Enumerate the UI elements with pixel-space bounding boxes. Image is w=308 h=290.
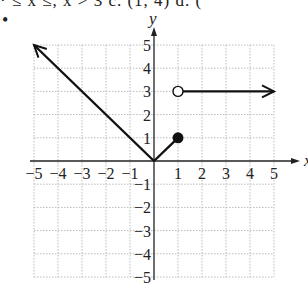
y-tick-label: 3 xyxy=(143,83,151,100)
x-tick-label: 1 xyxy=(174,165,182,182)
y-tick-label: 4 xyxy=(143,60,151,77)
graph-segment xyxy=(34,45,154,161)
y-axis-label: y xyxy=(147,9,157,28)
x-tick-label: −3 xyxy=(73,165,90,182)
closed-dot-icon xyxy=(173,132,184,143)
y-axis-arrow-icon xyxy=(151,27,157,36)
x-tick-label: 4 xyxy=(246,165,254,182)
piecewise-graph: xy−5−4−3−2−11234554321−1−2−3−4−5 xyxy=(0,0,308,290)
x-tick-label: 5 xyxy=(270,165,278,182)
y-tick-label: 2 xyxy=(143,107,151,124)
y-tick-label: −3 xyxy=(134,223,151,240)
x-axis-arrow-icon xyxy=(291,158,300,164)
x-tick-label: −5 xyxy=(25,165,42,182)
x-tick-label: 2 xyxy=(198,165,206,182)
y-tick-label: 1 xyxy=(143,130,151,147)
open-dot-icon xyxy=(173,86,183,96)
x-axis-label: x xyxy=(303,151,308,170)
y-tick-label: −2 xyxy=(134,199,151,216)
x-tick-label: −2 xyxy=(97,165,114,182)
y-tick-label: −1 xyxy=(134,176,151,193)
x-tick-label: 3 xyxy=(222,165,230,182)
x-tick-label: −4 xyxy=(49,165,66,182)
y-tick-label: 5 xyxy=(143,37,151,54)
y-tick-label: −5 xyxy=(134,269,151,286)
y-tick-label: −4 xyxy=(134,246,151,263)
